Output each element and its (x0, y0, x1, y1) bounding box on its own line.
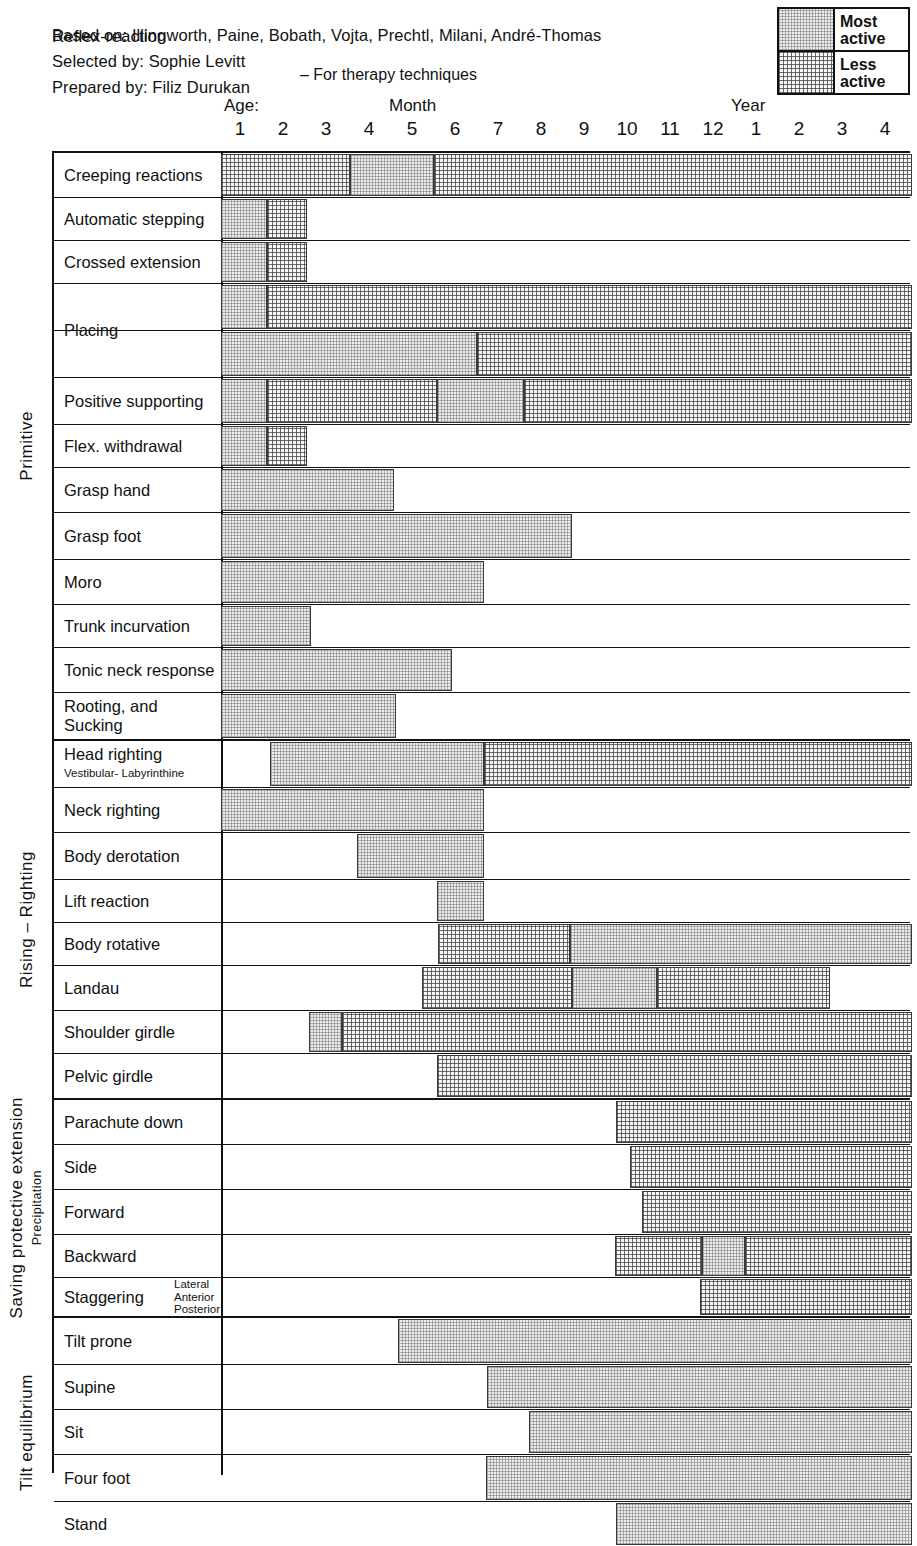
row-bars (221, 425, 910, 467)
axis-tick-1: 1 (235, 118, 246, 140)
table-row[interactable]: Body derotation (54, 832, 910, 879)
bar-segment-most[interactable] (486, 1456, 912, 1500)
bar-segment-less[interactable] (642, 1191, 912, 1233)
row-bars (221, 1502, 910, 1546)
legend-row-most-active: Most active (779, 9, 908, 50)
legend-swatch-most-active (779, 9, 835, 50)
bar-segment-less[interactable] (422, 967, 572, 1009)
bar-segment-most[interactable] (221, 379, 267, 423)
bar-segment-most[interactable] (616, 1503, 912, 1545)
bar-segment-less[interactable] (267, 426, 307, 466)
table-row[interactable]: Moro (54, 559, 910, 604)
bar-segment-most[interactable] (572, 967, 657, 1009)
bar-segment-less[interactable] (342, 1012, 912, 1052)
row-bars (221, 923, 910, 965)
bar-segment-less[interactable] (221, 154, 350, 196)
table-row[interactable]: Body rotative (54, 922, 910, 965)
table-row[interactable]: Lift reaction (54, 879, 910, 922)
bar-segment-most[interactable] (221, 606, 311, 646)
bar-segment-most[interactable] (221, 514, 572, 558)
bar-segment-most[interactable] (702, 1236, 745, 1276)
bar-segment-most[interactable] (221, 469, 394, 511)
table-row[interactable]: Legs (54, 330, 910, 377)
bar-segment-most[interactable] (487, 1366, 912, 1408)
bar-segment-less[interactable] (477, 332, 912, 376)
bar-segment-less[interactable] (438, 924, 570, 964)
bar-segment-most[interactable] (221, 649, 452, 691)
legend-less-line2: active (840, 73, 908, 90)
bar-segment-less[interactable] (434, 154, 912, 196)
table-row[interactable]: Flex. withdrawal (54, 424, 910, 467)
bar-segment-less[interactable] (267, 199, 307, 239)
axis-tick-5: 5 (407, 118, 418, 140)
row-label-crossed-extension: Crossed extension (64, 253, 201, 272)
bar-segment-less[interactable] (524, 379, 912, 423)
bar-segment-less[interactable] (616, 1101, 912, 1143)
table-row[interactable]: Neck righting (54, 787, 910, 832)
row-label-grasp-foot: Grasp foot (64, 527, 141, 546)
table-row[interactable]: Crossed extension (54, 240, 910, 283)
bar-segment-less[interactable] (484, 742, 912, 786)
bar-segment-most[interactable] (221, 694, 396, 738)
table-row[interactable]: Trunk incurvation (54, 604, 910, 647)
bar-segment-most[interactable] (529, 1411, 912, 1453)
bar-segment-most[interactable] (437, 881, 484, 921)
row-bars (221, 331, 910, 377)
row-label-direction-item: Posterior (174, 1303, 220, 1316)
bar-segment-most[interactable] (221, 789, 484, 831)
axis-tick-2: 2 (278, 118, 289, 140)
row-bars (221, 966, 910, 1010)
axis-tick-4: 4 (364, 118, 375, 140)
bar-segment-less[interactable] (745, 1236, 912, 1276)
table-row[interactable]: Automatic stepping (54, 197, 910, 240)
bar-segment-less[interactable] (615, 1236, 702, 1276)
bar-segment-less[interactable] (267, 379, 437, 423)
table-row[interactable]: Backward (54, 1234, 910, 1277)
table-row[interactable]: Grasp foot (54, 512, 910, 559)
table-row[interactable]: Positive supporting (54, 377, 910, 424)
row-label-rooting-and: Rooting, andSucking (64, 697, 158, 735)
bar-segment-most[interactable] (398, 1319, 912, 1363)
bar-segment-most[interactable] (221, 561, 484, 603)
table-row[interactable]: Stand (54, 1501, 910, 1546)
table-row[interactable]: Forward (54, 1189, 910, 1234)
bar-segment-less[interactable] (267, 242, 307, 282)
table-row[interactable]: Pelvic girdle (54, 1053, 910, 1098)
bar-segment-most[interactable] (221, 426, 267, 466)
table-row[interactable]: Grasp hand (54, 467, 910, 512)
table-row[interactable]: Rooting, andSucking (54, 692, 910, 739)
table-row[interactable]: Parachute down (54, 1100, 910, 1144)
bar-segment-most[interactable] (270, 742, 484, 786)
bar-segment-less[interactable] (437, 1055, 912, 1097)
table-row[interactable]: Creeping reactions (54, 153, 910, 197)
bar-segment-most[interactable] (350, 154, 434, 196)
table-row[interactable]: Supine (54, 1364, 910, 1409)
bar-segment-less[interactable] (630, 1146, 912, 1188)
bar-segment-less[interactable] (700, 1279, 912, 1315)
table-row[interactable]: ArmsPlacing (54, 283, 910, 330)
table-row[interactable]: StaggeringLateralAnteriorPosterior (54, 1277, 910, 1316)
therapy-note: – For therapy techniques (300, 66, 477, 84)
bar-segment-less[interactable] (657, 967, 830, 1009)
bar-segment-less[interactable] (267, 285, 912, 329)
bar-segment-most[interactable] (221, 199, 267, 239)
table-row[interactable]: Landau (54, 965, 910, 1010)
table-row[interactable]: Side (54, 1144, 910, 1189)
table-row[interactable]: Tonic neck response (54, 647, 910, 692)
table-row[interactable]: Head rightingVestibular- Labyrinthine (54, 741, 910, 787)
table-row[interactable]: Sit (54, 1409, 910, 1454)
row-label-side: Side (64, 1158, 97, 1177)
bar-segment-most[interactable] (221, 285, 267, 329)
row-bars (221, 1145, 910, 1189)
row-label-direction-item: Lateral (174, 1278, 220, 1291)
bar-segment-most[interactable] (570, 924, 912, 964)
table-row[interactable]: Tilt prone (54, 1318, 910, 1364)
bar-segment-most[interactable] (221, 242, 267, 282)
group-side-caption-1: Rising – Righting (2, 741, 52, 1098)
bar-segment-most[interactable] (357, 834, 484, 878)
bar-segment-most[interactable] (437, 379, 524, 423)
bar-segment-most[interactable] (221, 332, 477, 376)
table-row[interactable]: Four foot (54, 1454, 910, 1501)
table-row[interactable]: Shoulder girdle (54, 1010, 910, 1053)
bar-segment-most[interactable] (309, 1012, 342, 1052)
